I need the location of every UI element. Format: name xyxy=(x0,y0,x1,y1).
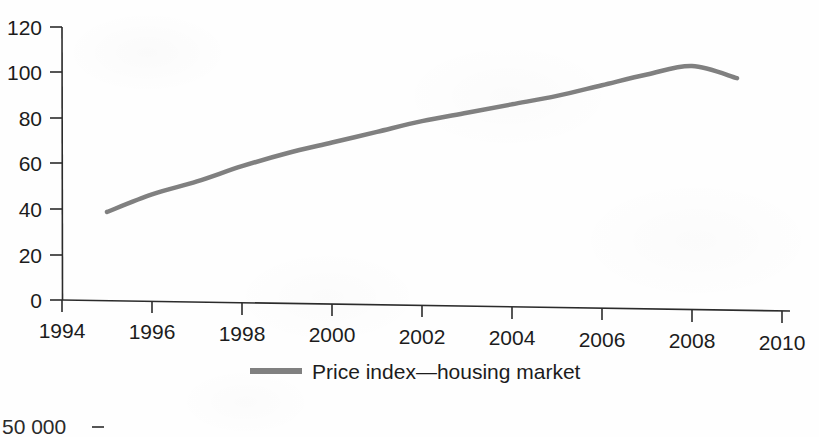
next-figure-axis-label: 50 000 xyxy=(2,415,66,437)
line-chart: 120 100 80 60 40 20 0 1994 1996 1998 2 xyxy=(0,0,819,437)
y-axis xyxy=(50,27,63,300)
x-tick-label-2008: 2008 xyxy=(669,329,716,352)
y-axis-line xyxy=(62,27,63,300)
legend-label-price-index: Price index—housing market xyxy=(312,360,581,383)
x-tick-label-1998: 1998 xyxy=(219,322,266,345)
x-axis-line xyxy=(62,300,790,311)
x-tick-label-2006: 2006 xyxy=(579,328,626,351)
y-tick-label-20: 20 xyxy=(19,244,42,267)
legend: Price index—housing market xyxy=(250,360,581,383)
x-tick-label-1996: 1996 xyxy=(129,320,176,343)
x-tick-label-1994: 1994 xyxy=(39,319,86,342)
series-line-price-index xyxy=(107,66,737,212)
next-figure-fragment: 50 000 xyxy=(2,415,104,437)
x-tick-label-2000: 2000 xyxy=(309,323,356,346)
y-tick-labels: 120 100 80 60 40 20 0 xyxy=(7,16,42,312)
x-tick-label-2002: 2002 xyxy=(399,325,446,348)
y-tick-label-100: 100 xyxy=(7,61,42,84)
y-tick-label-0: 0 xyxy=(30,289,42,312)
y-tick-label-60: 60 xyxy=(19,152,42,175)
x-tick-labels: 1994 1996 1998 2000 2002 2004 2006 2008 … xyxy=(39,319,806,354)
y-tick-label-80: 80 xyxy=(19,107,42,130)
y-tick-label-40: 40 xyxy=(19,198,42,221)
x-tick-label-2010: 2010 xyxy=(759,331,806,354)
x-tick-label-2004: 2004 xyxy=(489,326,536,349)
y-tick-label-120: 120 xyxy=(7,16,42,39)
figure-container: 120 100 80 60 40 20 0 1994 1996 1998 2 xyxy=(0,0,819,437)
